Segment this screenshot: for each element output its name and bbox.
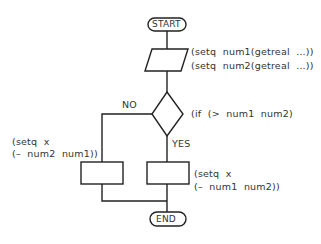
decision-annotation: (if (> num1 num2) [191, 108, 293, 120]
no-annotation-line-1: (setq x [12, 136, 50, 148]
start-label: START [152, 18, 181, 30]
no-label: NO [122, 99, 137, 111]
input-parallelogram [145, 49, 188, 71]
yes-process-box [147, 162, 189, 184]
no-annotation-line-2: (– num2 num1)) [12, 148, 98, 160]
yes-label: YES [172, 138, 190, 150]
end-label: END [156, 213, 176, 225]
no-connector [102, 114, 152, 162]
yes-annotation-line-2: (– num1 num2)) [194, 181, 280, 193]
yes-annotation-line-1: (setq x [194, 168, 232, 180]
no-process-box [81, 162, 123, 184]
join-connector [102, 184, 167, 201]
input-annotation-line-2: (setq num2(getreal ...)) [191, 60, 314, 72]
input-annotation-line-1: (setq num1(getreal ...)) [191, 46, 314, 58]
flowchart-canvas [0, 0, 321, 244]
decision-diamond [152, 92, 183, 136]
